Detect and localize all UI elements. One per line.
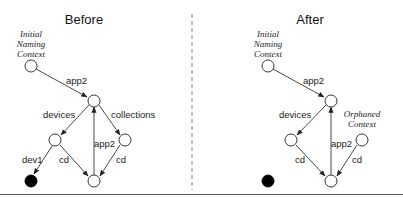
label-app2: app2 bbox=[303, 75, 324, 86]
initial-context-label-line2: Naming bbox=[253, 39, 283, 49]
initial-context-node bbox=[25, 60, 37, 72]
initial-context-label-line1: Initial bbox=[256, 29, 279, 39]
before-panel: Before Initial Naming Context app2 devic… bbox=[16, 12, 156, 187]
dev1-object-node bbox=[262, 175, 274, 187]
orphaned-context-label-line1: Orphaned bbox=[344, 109, 381, 119]
label-cd-right: cd bbox=[352, 154, 362, 165]
orphaned-context-node bbox=[356, 134, 368, 146]
devices-context-node bbox=[285, 134, 297, 146]
label-app2-back: app2 bbox=[94, 138, 115, 149]
orphaned-context-label-line2: Context bbox=[348, 119, 376, 129]
cd-context-node bbox=[325, 175, 337, 187]
initial-context-label-line3: Context bbox=[254, 49, 282, 59]
label-devices: devices bbox=[43, 109, 75, 120]
before-title: Before bbox=[65, 12, 103, 27]
cd-context-node bbox=[88, 175, 100, 187]
after-title: After bbox=[296, 12, 324, 27]
initial-context-label-line3: Context bbox=[17, 49, 45, 59]
label-cd-left: cd bbox=[295, 154, 305, 165]
collections-context-node bbox=[119, 134, 131, 146]
app2-context-node bbox=[88, 95, 100, 107]
naming-graph-diagram: Before Initial Naming Context app2 devic… bbox=[0, 0, 403, 197]
label-devices: devices bbox=[279, 109, 311, 120]
devices-context-node bbox=[49, 134, 61, 146]
label-app2: app2 bbox=[66, 75, 87, 86]
after-panel: After Initial Naming Context Orphaned Co… bbox=[253, 12, 381, 187]
label-collections: collections bbox=[111, 109, 156, 120]
label-app2-back: app2 bbox=[331, 138, 352, 149]
label-cd-right: cd bbox=[116, 154, 126, 165]
label-cd-left: cd bbox=[59, 154, 69, 165]
initial-context-label-line1: Initial bbox=[19, 29, 42, 39]
dev1-object-node bbox=[25, 175, 37, 187]
initial-context-node bbox=[262, 60, 274, 72]
label-dev1: dev1 bbox=[22, 154, 43, 165]
app2-context-node bbox=[325, 95, 337, 107]
initial-context-label-line2: Naming bbox=[16, 39, 46, 49]
